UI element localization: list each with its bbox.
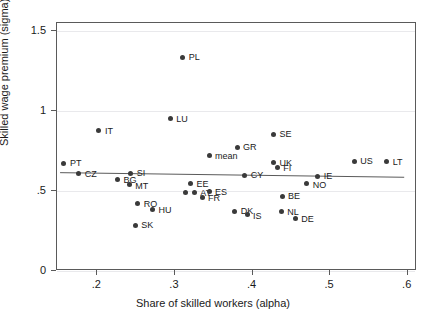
x-axis-tick-mark <box>174 270 175 275</box>
data-point <box>133 223 138 228</box>
x-axis-tick-mark <box>329 270 330 275</box>
data-point <box>115 177 120 182</box>
data-point <box>352 159 357 164</box>
y-axis-tick-label: 1 <box>40 104 46 116</box>
data-point <box>207 153 212 158</box>
x-axis-tick-label: .2 <box>92 278 101 290</box>
data-point <box>271 132 276 137</box>
gridline <box>57 271 415 272</box>
data-point <box>207 189 212 194</box>
data-point <box>280 194 285 199</box>
data-point <box>293 216 298 221</box>
data-point <box>150 207 155 212</box>
data-point <box>127 182 132 187</box>
x-axis-tick-label: .4 <box>247 278 256 290</box>
data-point <box>192 190 197 195</box>
data-point <box>275 165 280 170</box>
data-point <box>168 116 173 121</box>
data-point <box>200 195 205 200</box>
x-axis-tick-label: .6 <box>402 278 411 290</box>
x-axis-tick-mark <box>252 270 253 275</box>
data-point <box>128 171 133 176</box>
x-axis-tick-mark <box>407 270 408 275</box>
plot-frame: PLLUITSEGRmeanPTUSLTUKFISICZCYIEBGNOEEMT… <box>56 22 416 270</box>
data-point <box>315 174 320 179</box>
data-point <box>245 212 250 217</box>
y-axis-tick-label: .5 <box>37 184 46 196</box>
y-axis-tick-label: 1.5 <box>31 24 46 36</box>
x-axis-tick-label: .3 <box>169 278 178 290</box>
x-axis-tick-mark <box>96 270 97 275</box>
plot-area: PLLUITSEGRmeanPTUSLTUKFISICZCYIEBGNOEEMT… <box>57 23 415 269</box>
x-axis-tick-label: .5 <box>325 278 334 290</box>
y-axis-tick-mark <box>51 270 56 271</box>
y-axis-tick-label: 0 <box>40 264 46 276</box>
scatter-plot-figure: Skilled wage premium (sigma) 0.511.5 PLL… <box>0 0 426 320</box>
data-point <box>235 145 240 150</box>
x-axis-label: Share of skilled workers (alpha) <box>0 297 426 309</box>
data-point <box>76 171 81 176</box>
y-axis-label: Skilled wage premium (sigma) <box>0 0 10 146</box>
